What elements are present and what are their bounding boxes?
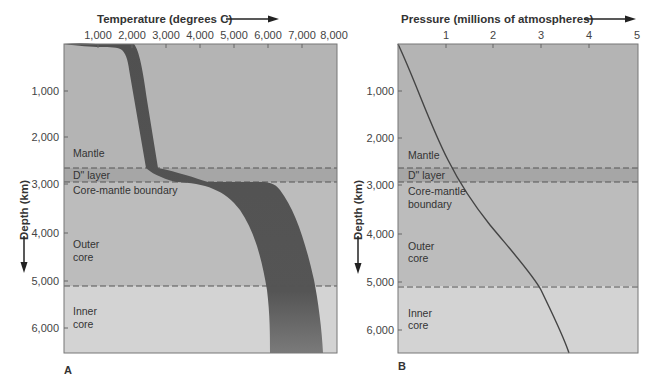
- label-mantle-b: Mantle: [408, 149, 440, 161]
- arrow-down-icon: [21, 236, 28, 273]
- svg-text:4: 4: [586, 29, 592, 41]
- svg-text:3,000: 3,000: [152, 29, 180, 41]
- inner-core-region-b: [398, 286, 638, 353]
- label-inner-core-b-1: Inner: [408, 307, 432, 319]
- svg-text:4,000: 4,000: [186, 29, 214, 41]
- y-axis-title-a: Depth (km): [18, 180, 30, 240]
- svg-text:2,000: 2,000: [118, 29, 146, 41]
- label-outer-core-a-2: core: [73, 251, 94, 263]
- svg-text:5,000: 5,000: [366, 276, 394, 288]
- svg-text:1,000: 1,000: [84, 29, 112, 41]
- panel-label-b: B: [398, 360, 406, 372]
- svg-text:1,000: 1,000: [31, 85, 59, 97]
- label-inner-core-b-2: core: [408, 319, 429, 331]
- label-outer-core-b-1: Outer: [408, 240, 435, 252]
- svg-text:1,000: 1,000: [366, 85, 394, 97]
- label-outer-core-b-2: core: [408, 252, 429, 264]
- panel-b: Pressure (millions of atmospheres) 1 2 3…: [352, 13, 640, 372]
- svg-text:3,000: 3,000: [366, 179, 394, 191]
- svg-text:6,000: 6,000: [366, 324, 394, 336]
- label-d-layer-b: D" layer: [408, 169, 445, 181]
- svg-text:6,000: 6,000: [254, 29, 282, 41]
- panel-label-a: A: [64, 364, 72, 376]
- svg-text:8,000: 8,000: [320, 29, 348, 41]
- svg-text:1: 1: [443, 29, 449, 41]
- x-axis-title-b: Pressure (millions of atmospheres): [401, 13, 594, 25]
- x-axis-title-a: Temperature (degrees C): [97, 13, 232, 25]
- label-d-layer-a: D" layer: [73, 169, 110, 181]
- svg-text:2,000: 2,000: [366, 132, 394, 144]
- label-cmb-b-1: Core-mantle: [408, 185, 466, 197]
- label-mantle-a: Mantle: [73, 147, 105, 159]
- label-inner-core-a-2: core: [73, 318, 94, 330]
- panel-a: Temperature (degrees C) 1,000: [18, 13, 348, 376]
- x-tick-labels-a: 1,000 2,000 3,000 4,000 5,000 6,000 7,00…: [84, 29, 348, 41]
- y-tick-labels-b: 1,000 2,000 3,000 4,000 5,000 6,000: [366, 85, 394, 336]
- x-tick-labels-b: 1 2 3 4 5: [443, 29, 640, 41]
- svg-text:2,000: 2,000: [31, 131, 59, 143]
- svg-text:5,000: 5,000: [220, 29, 248, 41]
- mantle-region-a: [64, 44, 337, 168]
- svg-text:5,000: 5,000: [31, 275, 59, 287]
- svg-text:4,000: 4,000: [31, 227, 59, 239]
- svg-text:6,000: 6,000: [31, 322, 59, 334]
- svg-text:2: 2: [490, 29, 496, 41]
- svg-text:3,000: 3,000: [31, 178, 59, 190]
- arrow-down-icon: [355, 236, 362, 274]
- label-inner-core-a-1: Inner: [73, 305, 97, 317]
- y-axis-title-b: Depth (km): [352, 180, 364, 240]
- svg-text:4,000: 4,000: [366, 228, 394, 240]
- svg-text:3: 3: [538, 29, 544, 41]
- y-tick-labels-a: 1,000 2,000 3,000 4,000 5,000 6,000: [31, 85, 59, 334]
- svg-text:5: 5: [634, 29, 640, 41]
- figure: Temperature (degrees C) 1,000: [0, 0, 649, 384]
- svg-text:7,000: 7,000: [288, 29, 316, 41]
- arrow-right-icon: [226, 16, 279, 23]
- label-cmb-b-2: boundary: [408, 198, 453, 210]
- label-outer-core-a-1: Outer: [73, 238, 100, 250]
- label-cmb-a: Core-mantle boundary: [73, 184, 178, 196]
